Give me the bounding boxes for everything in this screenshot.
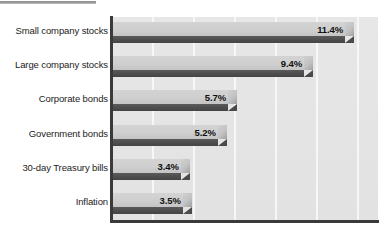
- bar-end-cap-2: [228, 90, 237, 104]
- plot-background: [111, 17, 378, 222]
- bar-bevel-4: [181, 173, 190, 180]
- y-axis-line: [110, 16, 113, 223]
- category-label-5: Inflation: [0, 196, 108, 207]
- category-label-3: Government bonds: [0, 128, 108, 139]
- value-label-1: 9.4%: [266, 58, 302, 69]
- gridline-2: [152, 17, 154, 221]
- category-label-0: Small company stocks: [0, 25, 108, 36]
- category-label-2: Corporate bonds: [0, 93, 108, 104]
- category-label-4: 30-day Treasury bills: [0, 162, 108, 173]
- bar-body-3: [111, 139, 218, 146]
- bar-bevel-2: [228, 104, 237, 111]
- bar-body-4: [111, 173, 181, 180]
- bar-body-5: [111, 207, 183, 214]
- bar-bevel-3: [218, 139, 227, 146]
- plot-area: [111, 17, 378, 222]
- bar-end-cap-4: [181, 159, 190, 173]
- value-label-4: 3.4%: [143, 161, 179, 172]
- bar-bevel-5: [183, 207, 192, 214]
- chart-figure: Small company stocksLarge company stocks…: [0, 0, 388, 233]
- gridline-12: [357, 17, 359, 221]
- gridline-6: [234, 17, 236, 221]
- bar-end-cap-0: [345, 22, 354, 36]
- bar-bevel-1: [304, 70, 313, 77]
- gridline-10: [316, 17, 318, 221]
- gridline-4: [193, 17, 195, 221]
- value-label-2: 5.7%: [190, 92, 226, 103]
- value-label-5: 3.5%: [145, 195, 181, 206]
- bar-body-0: [111, 36, 345, 43]
- bar-bevel-0: [345, 36, 354, 43]
- bar-end-cap-5: [183, 193, 192, 207]
- gridline-8: [275, 17, 277, 221]
- value-label-3: 5.2%: [180, 127, 216, 138]
- category-label-1: Large company stocks: [0, 59, 108, 70]
- top-rule-divider: [0, 1, 96, 4]
- bar-body-1: [111, 70, 304, 77]
- bar-body-2: [111, 104, 228, 111]
- bar-end-cap-1: [304, 56, 313, 70]
- x-axis-line: [110, 220, 379, 223]
- value-label-0: 11.4%: [307, 24, 343, 35]
- bar-end-cap-3: [218, 125, 227, 139]
